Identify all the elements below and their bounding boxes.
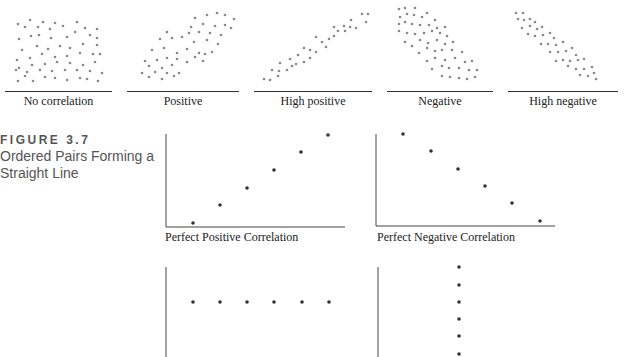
panel-high-negative: High negative bbox=[508, 0, 618, 100]
chart-vertical bbox=[370, 250, 626, 357]
panel-positive: Positive bbox=[127, 0, 239, 100]
chart-perfect-positive bbox=[160, 110, 380, 230]
label-high-negative: High negative bbox=[508, 94, 618, 109]
baseline bbox=[508, 91, 618, 92]
baseline bbox=[254, 91, 372, 92]
label-high-positive: High positive bbox=[254, 94, 372, 109]
plot-horizontal bbox=[160, 250, 380, 357]
plot-perfect-positive: Perfect Positive Correlation bbox=[160, 110, 380, 250]
baseline bbox=[387, 91, 493, 92]
figure-caption: FIGURE 3.7 Ordered Pairs Forming a Strai… bbox=[0, 133, 160, 182]
label-perfect-negative: Perfect Negative Correlation bbox=[377, 230, 515, 245]
panel-negative: Negative bbox=[387, 0, 493, 100]
figure-number: FIGURE 3.7 bbox=[0, 133, 160, 147]
label-positive: Positive bbox=[127, 94, 239, 109]
scatter-no-correlation bbox=[5, 0, 112, 90]
label-negative: Negative bbox=[387, 94, 493, 109]
plot-perfect-negative: Perfect Negative Correlation bbox=[370, 110, 626, 250]
figure-title: Ordered Pairs Forming a Straight Line bbox=[0, 148, 160, 182]
baseline bbox=[127, 91, 239, 92]
scatter-high-negative bbox=[508, 0, 618, 90]
baseline bbox=[5, 91, 112, 92]
scatter-negative bbox=[387, 0, 493, 90]
chart-horizontal bbox=[160, 250, 380, 357]
label-perfect-positive: Perfect Positive Correlation bbox=[165, 230, 298, 245]
panel-no-correlation: No correlation bbox=[5, 0, 112, 100]
chart-perfect-negative bbox=[370, 110, 626, 230]
label-no-correlation: No correlation bbox=[5, 94, 112, 109]
scatter-high-positive bbox=[254, 0, 372, 90]
scatter-positive bbox=[127, 0, 239, 90]
plot-vertical bbox=[370, 250, 626, 357]
panel-high-positive: High positive bbox=[254, 0, 372, 100]
